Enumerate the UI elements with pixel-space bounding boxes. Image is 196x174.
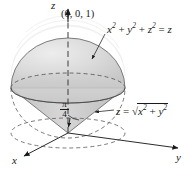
cone-eq-plus: +	[149, 105, 155, 117]
sphere-equation-label: x2 + y2 + z2 = z	[107, 22, 172, 35]
y-axis-line	[68, 133, 178, 148]
sphere-eq-equals: =	[158, 23, 164, 35]
sphere-eq-plus-2: +	[139, 23, 145, 35]
angle-numerator: π	[60, 100, 69, 109]
apex-point-label: (0, 0, 1)	[61, 9, 94, 20]
y-axis-label: y	[176, 152, 181, 163]
sphere-eq-plus-1: +	[118, 23, 124, 35]
angle-denominator: 4	[60, 110, 69, 119]
cone-equation-label: z = √x2 + y2	[116, 103, 168, 117]
figure-canvas: z y x (0, 0, 1) x2 + y2 + z2 = z z = √x2…	[0, 0, 196, 174]
x-axis-label: x	[12, 155, 17, 166]
z-axis-label: z	[51, 0, 55, 11]
sphere-eq-rhs: z	[167, 23, 171, 35]
angle-label: π 4	[60, 100, 69, 120]
cone-equation-leader	[95, 110, 114, 112]
cone-eq-exp-y: 2	[163, 103, 167, 112]
